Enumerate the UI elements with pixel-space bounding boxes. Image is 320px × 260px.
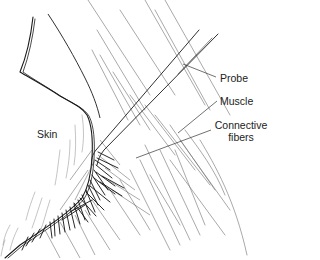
tissue-edge	[48, 14, 100, 118]
skin-label: Skin	[37, 128, 57, 140]
probe-label: Probe	[220, 72, 248, 84]
muscle-label: Muscle	[220, 95, 253, 107]
probe-shape	[92, 30, 218, 165]
connective-fibers-label: Connective fibers	[213, 119, 269, 143]
connective-label-line1: Connective	[213, 119, 269, 131]
leader-lines	[136, 64, 217, 158]
muscle-leader-line	[178, 101, 217, 133]
connective-strands	[45, 140, 150, 258]
connective-leader-line	[136, 130, 211, 158]
connective-label-line2: fibers	[213, 131, 269, 143]
